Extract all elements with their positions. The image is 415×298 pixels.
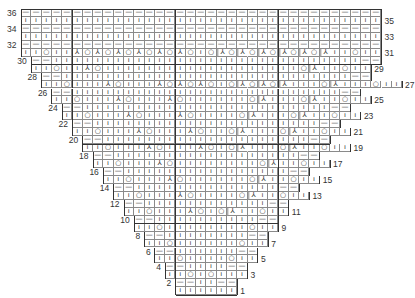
purl-stitch-symbol: — xyxy=(21,9,31,17)
knit-stitch-symbol: ı xyxy=(227,232,237,240)
knit-stitch-symbol: ı xyxy=(237,271,247,279)
section-divider xyxy=(175,152,176,160)
knit-stitch-symbol: ı xyxy=(114,89,124,97)
section-divider xyxy=(72,96,73,104)
purl-stitch-symbol: — xyxy=(62,25,72,33)
ssk-symbol: ⅄ xyxy=(176,192,186,200)
knit-stitch-symbol: ı xyxy=(268,128,278,136)
knit-stitch-symbol: ı xyxy=(93,144,103,152)
k2tog-symbol: ⅄ xyxy=(258,176,268,184)
knit-stitch-symbol: ı xyxy=(299,81,309,89)
chart-edge xyxy=(144,240,145,248)
knit-stitch-symbol: ı xyxy=(217,168,227,176)
purl-stitch-symbol: — xyxy=(309,25,319,33)
ssk-symbol: ⅄ xyxy=(165,96,175,104)
ssk-symbol: ⅄ xyxy=(83,65,93,73)
chart-edge xyxy=(62,112,63,120)
chart-edge xyxy=(21,33,22,41)
purl-stitch-symbol: — xyxy=(248,248,258,256)
knit-stitch-symbol: ı xyxy=(268,17,278,25)
purl-stitch-symbol: — xyxy=(52,41,62,49)
row-number-label: 24 xyxy=(48,104,57,112)
section-divider xyxy=(278,9,279,17)
section-divider xyxy=(175,176,176,184)
ssk-symbol: ⅄ xyxy=(134,128,144,136)
section-divider xyxy=(278,89,279,97)
purl-stitch-symbol: — xyxy=(186,9,196,17)
yarn-over-symbol: ○ xyxy=(42,49,52,57)
knit-stitch-symbol: ı xyxy=(279,168,289,176)
knit-stitch-symbol: ı xyxy=(176,89,186,97)
knit-stitch-symbol: ı xyxy=(320,104,330,112)
yarn-over-symbol: ○ xyxy=(206,49,216,57)
ssk-symbol: ⅄ xyxy=(124,112,134,120)
purl-stitch-symbol: — xyxy=(186,279,196,287)
yarn-over-symbol: ○ xyxy=(258,208,268,216)
knit-stitch-symbol: ı xyxy=(309,81,319,89)
purl-stitch-symbol: — xyxy=(124,184,134,192)
knit-stitch-symbol: ı xyxy=(237,176,247,184)
knit-stitch-symbol: ı xyxy=(268,208,278,216)
knit-stitch-symbol: ı xyxy=(124,160,134,168)
knit-stitch-symbol: ı xyxy=(248,17,258,25)
knit-stitch-symbol: ı xyxy=(62,112,72,120)
purl-stitch-symbol: — xyxy=(361,25,371,33)
knit-stitch-symbol: ı xyxy=(134,224,144,232)
knit-stitch-symbol: ı xyxy=(206,104,216,112)
knit-stitch-symbol: ı xyxy=(165,168,175,176)
yarn-over-symbol: ○ xyxy=(320,128,330,136)
knit-stitch-symbol: ı xyxy=(340,81,350,89)
knit-stitch-symbol: ı xyxy=(145,160,155,168)
knit-stitch-symbol: ı xyxy=(155,128,165,136)
knit-stitch-symbol: ı xyxy=(176,104,186,112)
knit-stitch-symbol: ı xyxy=(268,152,278,160)
ssk-symbol: ⅄ xyxy=(196,144,206,152)
knit-stitch-symbol: ı xyxy=(258,33,268,41)
knit-stitch-symbol: ı xyxy=(227,17,237,25)
purl-stitch-symbol: — xyxy=(330,25,340,33)
knit-stitch-symbol: ı xyxy=(83,104,93,112)
knit-stitch-symbol: ı xyxy=(176,128,186,136)
k2tog-symbol: ⅄ xyxy=(217,49,227,57)
knit-stitch-symbol: ı xyxy=(31,49,41,57)
knit-stitch-symbol: ı xyxy=(186,232,196,240)
knit-stitch-symbol: ı xyxy=(186,263,196,271)
section-divider xyxy=(278,25,279,33)
knit-stitch-symbol: ı xyxy=(52,81,62,89)
purl-stitch-symbol: — xyxy=(31,9,41,17)
knit-stitch-symbol: ı xyxy=(289,33,299,41)
chart-edge xyxy=(330,160,331,168)
knit-stitch-symbol: ı xyxy=(320,17,330,25)
knit-stitch-symbol: ı xyxy=(186,200,196,208)
knit-stitch-symbol: ı xyxy=(237,168,247,176)
chart-edge xyxy=(381,17,382,25)
knit-stitch-symbol: ı xyxy=(145,65,155,73)
row-number-label: 34 xyxy=(7,25,16,33)
knit-stitch-symbol: ı xyxy=(217,152,227,160)
purl-stitch-symbol: — xyxy=(103,9,113,17)
chart-edge xyxy=(319,176,320,184)
ssk-symbol: ⅄ xyxy=(186,128,196,136)
knit-stitch-symbol: ı xyxy=(124,208,134,216)
knit-stitch-symbol: ı xyxy=(196,104,206,112)
ssk-symbol: ⅄ xyxy=(176,81,186,89)
knit-stitch-symbol: ı xyxy=(176,200,186,208)
k2tog-symbol: ⅄ xyxy=(248,192,258,200)
knit-stitch-symbol: ı xyxy=(145,120,155,128)
knit-stitch-symbol: ı xyxy=(165,17,175,25)
chart-edge xyxy=(381,33,382,41)
knit-stitch-symbol: ı xyxy=(134,120,144,128)
purl-stitch-symbol: — xyxy=(279,9,289,17)
knit-stitch-symbol: ı xyxy=(186,144,196,152)
chart-edge xyxy=(21,9,22,17)
row-number-label: 20 xyxy=(69,136,78,144)
knit-stitch-symbol: ı xyxy=(103,73,113,81)
row-number-label: 2 xyxy=(167,279,172,287)
knit-stitch-symbol: ı xyxy=(176,120,186,128)
knit-stitch-symbol: ı xyxy=(258,152,268,160)
knit-stitch-symbol: ı xyxy=(299,89,309,97)
ssk-symbol: ⅄ xyxy=(186,208,196,216)
knit-stitch-symbol: ı xyxy=(124,120,134,128)
purl-stitch-symbol: — xyxy=(268,41,278,49)
knit-stitch-symbol: ı xyxy=(165,200,175,208)
